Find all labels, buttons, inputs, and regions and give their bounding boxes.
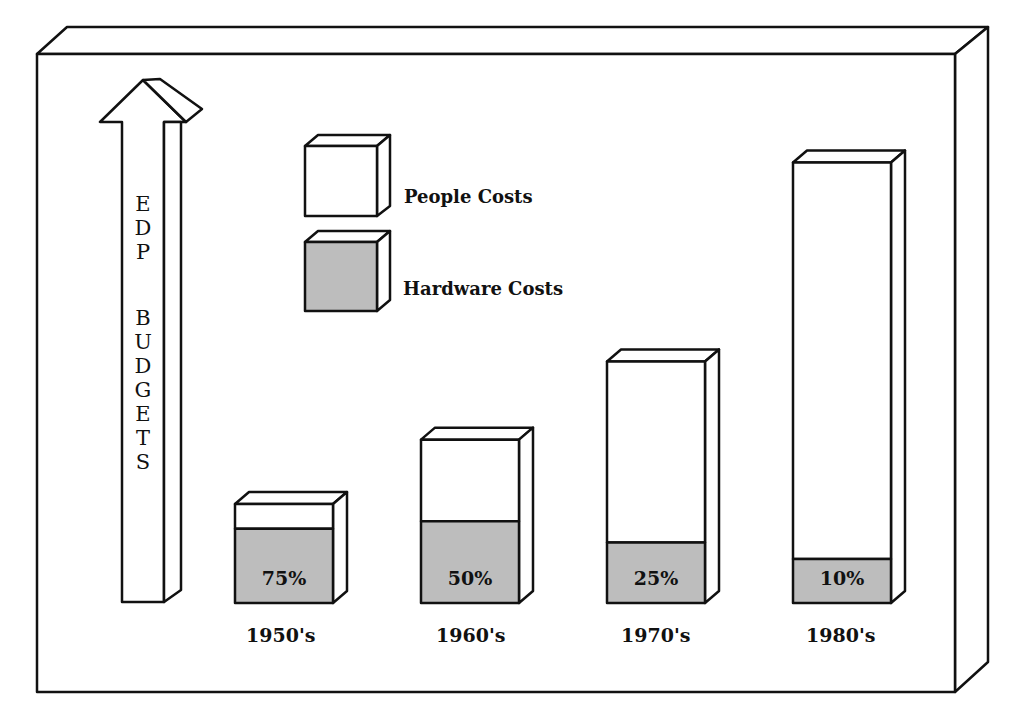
axis-letter: S <box>128 450 158 474</box>
axis-label-budgets: B U D G E T S <box>128 306 158 474</box>
axis-letter: E <box>128 192 158 216</box>
chart-stage: E D P B U D G E T S People Costs Hardwar… <box>0 0 1013 724</box>
legend-hardware-swatch <box>305 231 390 311</box>
axis-letter: B <box>128 306 158 330</box>
data-label-1950s: 75% <box>235 567 333 589</box>
bar-side-face <box>333 492 347 603</box>
axis-letter: G <box>128 378 158 402</box>
legend-people-label: People Costs <box>404 186 533 207</box>
bar-segment-people <box>607 361 705 542</box>
data-label-1960s: 50% <box>421 567 519 589</box>
bar-segment-people <box>793 162 891 558</box>
bar-top-face <box>421 428 533 440</box>
bar-side-face <box>519 428 533 603</box>
axis-letter: D <box>128 354 158 378</box>
axis-letter: U <box>128 330 158 354</box>
axis-letter: T <box>128 426 158 450</box>
category-label-1950s: 1950's <box>246 624 315 646</box>
board-top-face <box>37 27 988 54</box>
board-side-face <box>955 27 988 692</box>
axis-letter: D <box>128 216 158 240</box>
category-label-1980s: 1980's <box>806 624 875 646</box>
axis-letter: E <box>128 402 158 426</box>
bar-segment-hardware <box>235 529 333 603</box>
category-label-1960s: 1960's <box>436 624 505 646</box>
bar-segment-people <box>235 504 333 529</box>
legend-hardware-label: Hardware Costs <box>403 278 563 299</box>
bar-top-face <box>235 492 347 504</box>
bar-segment-people <box>421 440 519 522</box>
bar-1970s <box>607 349 719 603</box>
bar-1980s <box>793 150 905 603</box>
axis-label-edp: E D P <box>128 192 158 264</box>
data-label-1970s: 25% <box>607 567 705 589</box>
bar-side-face <box>705 349 719 603</box>
bar-segment-hardware <box>421 521 519 603</box>
bar-top-face <box>793 150 905 162</box>
legend-people-swatch <box>305 135 390 216</box>
axis-letter: P <box>128 240 158 264</box>
bar-side-face <box>891 150 905 603</box>
category-label-1970s: 1970's <box>621 624 690 646</box>
data-label-1980s: 10% <box>793 567 891 589</box>
bar-top-face <box>607 349 719 361</box>
